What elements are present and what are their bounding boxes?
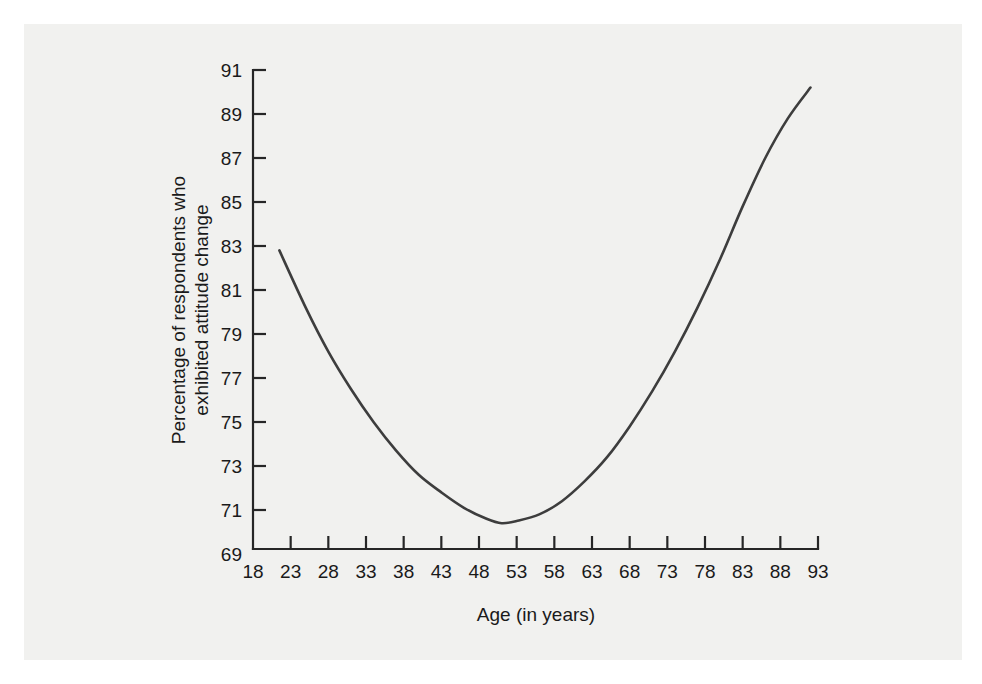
- y-tick-label-81: 81: [221, 280, 242, 301]
- y-axis-title: Percentage of respondents who exhibited …: [168, 176, 212, 444]
- x-tick-label-73: 73: [657, 561, 678, 582]
- y-axis-title-line-1: Percentage of respondents who: [168, 176, 189, 444]
- y-tick-label-89: 89: [221, 104, 242, 125]
- y-tick-label-69: 69: [221, 544, 242, 565]
- y-tick-label-71: 71: [221, 500, 242, 521]
- x-tick-label-18: 18: [242, 561, 263, 582]
- figure-root: 697173757779818385878991 182328333843485…: [0, 0, 982, 684]
- x-tick-label-28: 28: [318, 561, 339, 582]
- x-axis-tick-marks: [291, 536, 818, 549]
- x-tick-label-58: 58: [544, 561, 565, 582]
- x-tick-label-38: 38: [393, 561, 414, 582]
- y-tick-label-77: 77: [221, 368, 242, 389]
- y-axis-title-line-2: exhibited attitude change: [191, 204, 212, 415]
- x-tick-label-48: 48: [468, 561, 489, 582]
- y-tick-label-91: 91: [221, 60, 242, 81]
- x-tick-label-78: 78: [694, 561, 715, 582]
- x-axis-tick-labels: 18232833384348535863687378838893: [242, 561, 828, 582]
- y-tick-label-83: 83: [221, 236, 242, 257]
- y-tick-label-79: 79: [221, 324, 242, 345]
- x-tick-label-68: 68: [619, 561, 640, 582]
- y-axis-tick-marks: [253, 70, 266, 510]
- x-tick-label-53: 53: [506, 561, 527, 582]
- y-axis-tick-labels: 697173757779818385878991: [221, 60, 242, 565]
- y-tick-label-75: 75: [221, 412, 242, 433]
- y-tick-label-85: 85: [221, 192, 242, 213]
- x-tick-label-93: 93: [807, 561, 828, 582]
- x-tick-label-43: 43: [431, 561, 452, 582]
- x-axis-title: Age (in years): [477, 604, 595, 625]
- x-tick-label-83: 83: [732, 561, 753, 582]
- x-tick-label-63: 63: [581, 561, 602, 582]
- y-tick-label-87: 87: [221, 148, 242, 169]
- attitude-change-curve: [279, 88, 810, 524]
- x-tick-label-88: 88: [770, 561, 791, 582]
- y-tick-label-73: 73: [221, 456, 242, 477]
- x-tick-label-23: 23: [280, 561, 301, 582]
- attitude-change-line-chart: 697173757779818385878991 182328333843485…: [0, 0, 982, 684]
- x-tick-label-33: 33: [355, 561, 376, 582]
